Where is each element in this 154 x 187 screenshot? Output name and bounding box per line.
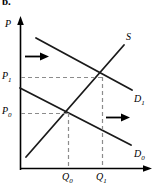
price-axis-label: P bbox=[5, 19, 11, 29]
price-tick-label-p1: P1 bbox=[2, 71, 12, 85]
quantity-tick-label-q0: Q0 bbox=[62, 172, 73, 186]
shift-arrow-upper-icon bbox=[25, 53, 49, 61]
demand-curve-d0 bbox=[20, 88, 131, 145]
demand-curve-d0-label: D0 bbox=[134, 149, 145, 163]
price-axis bbox=[17, 16, 24, 170]
quantity-tick-label-q1: Q1 bbox=[96, 172, 107, 186]
supply-curve bbox=[26, 45, 124, 157]
shift-arrow-lower-icon bbox=[106, 114, 130, 122]
equilibrium-guides-1 bbox=[21, 77, 103, 168]
price-tick-label-p0: P0 bbox=[2, 106, 12, 120]
equilibrium-guides-0 bbox=[21, 113, 69, 168]
demand-curve-d1 bbox=[36, 38, 132, 90]
supply-demand-figure: b. bbox=[0, 0, 154, 187]
supply-demand-chart-canvas bbox=[0, 0, 154, 187]
quantity-axis bbox=[20, 165, 152, 172]
demand-curve-d1-label: D1 bbox=[134, 94, 145, 108]
supply-curve-label: S bbox=[126, 32, 131, 46]
